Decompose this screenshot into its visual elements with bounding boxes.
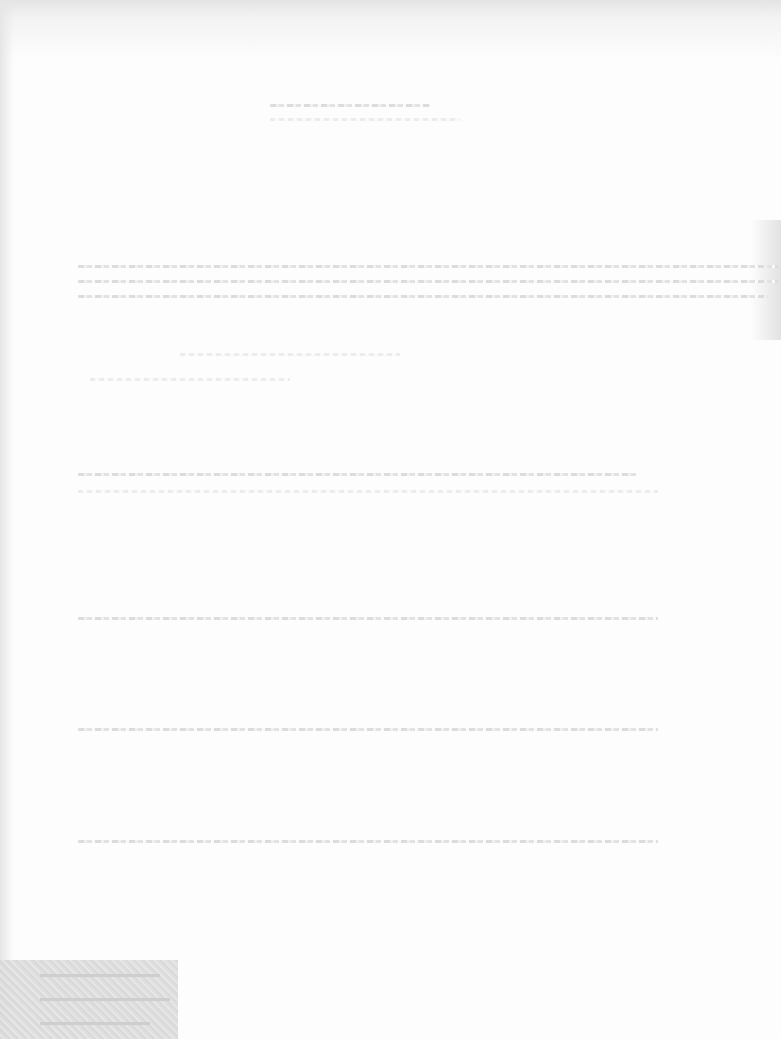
title-line-2: [270, 118, 460, 121]
stamp-line: [40, 1022, 150, 1025]
paragraph-line: [78, 490, 658, 493]
stamp-line: [40, 998, 170, 1001]
paragraph-line: [78, 617, 658, 620]
paragraph-line: [78, 265, 778, 268]
scan-shadow-left: [0, 0, 14, 1039]
paragraph-line: [90, 378, 290, 381]
paragraph-line: [78, 280, 778, 283]
faded-stamp: [0, 960, 178, 1039]
paragraph-line: [78, 840, 658, 843]
stamp-line: [40, 974, 160, 977]
title-line-1: [270, 104, 430, 107]
scan-shadow-top: [0, 0, 781, 60]
paragraph-line: [78, 473, 638, 476]
paragraph-line: [78, 728, 658, 731]
paragraph-line: [180, 353, 400, 356]
paragraph-line: [78, 295, 768, 298]
